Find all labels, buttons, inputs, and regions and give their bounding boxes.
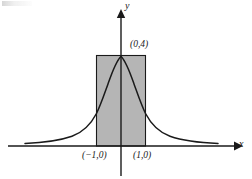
scan-artifact bbox=[2, 1, 32, 6]
x-axis-label: x bbox=[239, 139, 243, 149]
peak-point-label: (0,4) bbox=[130, 40, 148, 50]
graph-figure: (0,4) (−1,0) (1,0) y x bbox=[0, 0, 252, 179]
left-root-label: (−1,0) bbox=[82, 151, 107, 161]
y-axis-label: y bbox=[125, 1, 129, 11]
plot-canvas bbox=[0, 0, 252, 179]
y-axis-arrowhead bbox=[117, 9, 125, 18]
right-root-label: (1,0) bbox=[133, 151, 151, 161]
